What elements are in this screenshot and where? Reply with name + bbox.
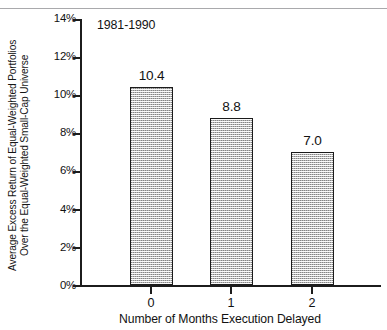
bar-2 [291, 152, 334, 285]
y-tick-mark-8 [73, 133, 81, 135]
x-axis-title: Number of Months Execution Delayed [60, 312, 380, 326]
y-axis-tick-labels: 14% 12% 10% 8% 6% 4% 2% 0% [38, 0, 76, 330]
x-tick-mark-0 [150, 287, 152, 294]
x-tick-label-2: 2 [292, 297, 332, 310]
bar-value-label-1: 8.8 [201, 100, 262, 114]
y-tick-mark-12 [73, 57, 81, 59]
y-tick-mark-6 [73, 171, 81, 173]
y-tick-label-6: 6% [40, 165, 76, 176]
y-tick-label-0: 0% [40, 280, 76, 291]
bar-chart-figure: Average Excess Return of Equal-Weighted … [0, 0, 387, 330]
x-tick-mark-2 [311, 287, 313, 294]
y-tick-label-2: 2% [40, 242, 76, 253]
y-tick-mark-10 [73, 95, 81, 97]
x-tick-label-0: 0 [131, 297, 171, 310]
bar-1 [210, 118, 253, 285]
y-tick-label-4: 4% [40, 204, 76, 215]
y-tick-label-14: 14% [40, 13, 76, 24]
x-tick-mark-1 [230, 287, 232, 294]
bar-0 [130, 87, 173, 285]
y-axis-title-line-1: Average Excess Return of Equal-Weighted … [8, 39, 20, 270]
y-tick-label-8: 8% [40, 127, 76, 138]
y-tick-mark-4 [73, 209, 81, 211]
bar-value-label-0: 10.4 [121, 69, 182, 83]
bar-value-label-2: 7.0 [282, 134, 343, 148]
y-axis-title: Average Excess Return of Equal-Weighted … [0, 0, 40, 310]
y-tick-mark-0 [73, 285, 81, 287]
y-axis-title-line-2: Over the Equal-Weighted Small-Cap Univer… [20, 39, 32, 270]
y-tick-label-12: 12% [40, 51, 76, 62]
chart-annotation-period: 1981-1990 [97, 18, 155, 32]
y-tick-mark-14 [73, 19, 81, 21]
y-tick-label-10: 10% [40, 89, 76, 100]
y-tick-mark-2 [73, 247, 81, 249]
x-tick-label-1: 1 [211, 297, 251, 310]
